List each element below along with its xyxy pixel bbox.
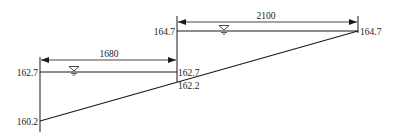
elevation-left-water: 162.7 (17, 68, 39, 78)
elevation-left-bed: 160.2 (17, 117, 39, 127)
elevation-right-water: 164.7 (360, 27, 382, 37)
water-surface-icon (69, 67, 79, 76)
elevation-mid-bed: 162.2 (178, 81, 200, 91)
elevation-mid-water-high: 164.7 (154, 27, 176, 37)
elevation-mid-water-low: 162.7 (178, 68, 200, 78)
canal-profile-diagram: 1680 2100 162.7 160.2 164.7 162.7 162.2 … (0, 0, 397, 140)
water-surface-icon (219, 26, 229, 35)
dimension-label-right-span: 2100 (257, 11, 276, 21)
dimension-label-left-span: 1680 (100, 49, 119, 59)
